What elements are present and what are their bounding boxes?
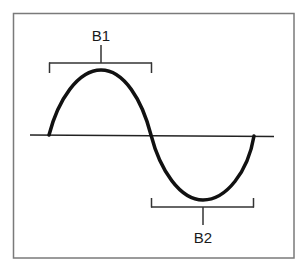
sine-wave-diagram: B1 B2: [0, 0, 305, 274]
label-b2: B2: [194, 229, 212, 246]
label-b1: B1: [92, 27, 110, 44]
